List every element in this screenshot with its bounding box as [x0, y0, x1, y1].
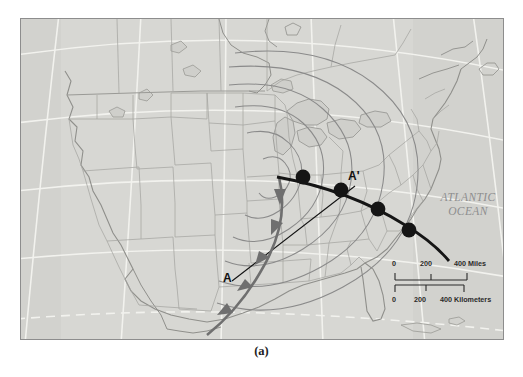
scale-km-tick-400: 400 Kilometers — [440, 295, 491, 304]
ocean-label-line2: OCEAN — [429, 205, 504, 219]
scale-miles-tick-200: 200 — [420, 259, 432, 268]
cross-section-label-a: A — [223, 271, 232, 285]
figure-caption: (a) — [0, 344, 523, 359]
scale-km-tick-200: 200 — [414, 295, 426, 304]
map-frame: ATLANTIC OCEAN A A' 0 200 400 Miles 0 20… — [20, 18, 504, 340]
scale-km-tick-0: 0 — [392, 295, 396, 304]
ocean-label-line1: ATLANTIC — [429, 191, 504, 205]
scale-miles-labels: 0 200 400 Miles — [392, 259, 502, 270]
scale-km-labels: 0 200 400 Kilometers — [392, 295, 502, 306]
scale-miles-tick-0: 0 — [392, 259, 396, 268]
scale-ruler-svg — [392, 271, 502, 295]
ocean-label: ATLANTIC OCEAN — [429, 191, 504, 218]
scale-miles-tick-400: 400 Miles — [454, 259, 486, 268]
scale-bar: 0 200 400 Miles 0 200 400 Kilometers — [392, 259, 502, 305]
cross-section-label-a-prime: A' — [348, 169, 360, 183]
figure-panel: ATLANTIC OCEAN A A' 0 200 400 Miles 0 20… — [0, 0, 523, 377]
